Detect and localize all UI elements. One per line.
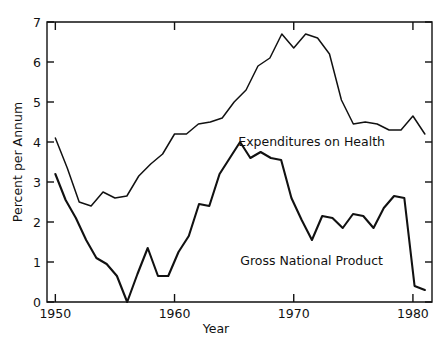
line-chart: 01234567 1950196019701980 Expenditures o…	[0, 0, 448, 344]
y-tick-label-group: 01234567	[33, 15, 41, 310]
x-tick-label: 1950	[39, 306, 71, 321]
series-line-expenditures-on-health	[55, 34, 425, 206]
chart-figure: 01234567 1950196019701980 Expenditures o…	[0, 0, 448, 344]
series-label-gross-national-product: Gross National Product	[240, 253, 383, 268]
y-tick-label: 4	[33, 135, 41, 150]
x-tick-label: 1960	[159, 306, 191, 321]
series-line-gross-national-product	[55, 142, 425, 302]
y-tick-label: 1	[33, 255, 41, 270]
x-axis-title: Year	[202, 321, 230, 336]
series-annotation-group: Expenditures on HealthGross National Pro…	[238, 134, 385, 268]
y-tick-label: 5	[33, 95, 41, 110]
x-tick-label: 1980	[397, 306, 429, 321]
y-axis-title: Percent per Annum	[10, 102, 25, 222]
x-tick-label-group: 1950196019701980	[39, 306, 428, 321]
y-tick-label: 3	[33, 175, 41, 190]
series-label-expenditures-on-health: Expenditures on Health	[238, 134, 385, 149]
y-tick-label: 7	[33, 15, 41, 30]
x-tick-label: 1970	[278, 306, 310, 321]
y-tick-label: 2	[33, 215, 41, 230]
y-tick-label: 6	[33, 55, 41, 70]
